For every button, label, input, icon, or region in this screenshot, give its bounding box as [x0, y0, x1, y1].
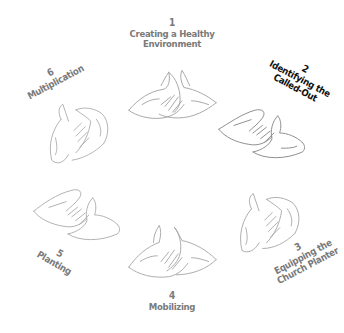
cupped-hands-icon: [125, 68, 220, 126]
step-4-title-line-1: Mobilizing: [132, 302, 212, 313]
step-6-label: 6 Multiplication: [8, 46, 98, 108]
cupped-hands-icon: [225, 188, 310, 258]
cupped-hands-icon: [35, 100, 115, 172]
step-4-label: 4 Mobilizing: [132, 290, 212, 312]
church-planting-cycle-diagram: 1 Creating a Healthy Environment 2 Ident…: [0, 0, 344, 333]
step-1-title-line-2: Environment: [112, 39, 232, 50]
cupped-hands-icon: [125, 222, 220, 282]
step-1-number: 1: [112, 17, 232, 29]
step-1-label: 1 Creating a Healthy Environment: [112, 17, 232, 50]
cupped-hands-icon: [215, 103, 310, 163]
cupped-hands-icon: [30, 183, 125, 245]
step-4-number: 4: [132, 290, 212, 302]
